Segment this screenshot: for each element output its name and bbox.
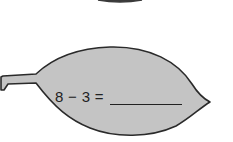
leaf-illustration xyxy=(0,0,233,142)
equation-text: 8 − 3 = xyxy=(55,88,104,105)
top-shape-edge xyxy=(98,0,142,2)
math-problem: 8 − 3 = xyxy=(55,88,182,105)
answer-blank[interactable] xyxy=(110,91,182,105)
